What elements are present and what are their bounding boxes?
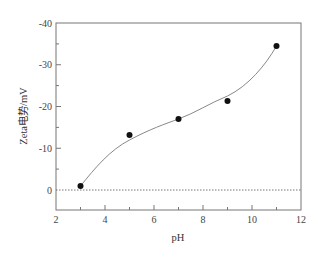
zeta-potential-chart: 2 4 6 8 10 12 -40 -30 -20 -10 0 pH Zeta电…	[0, 0, 323, 254]
x-axis-ticks	[81, 205, 277, 210]
y-tick-label: -30	[39, 59, 52, 70]
y-tick-label: 0	[47, 185, 52, 196]
data-point-ph7	[176, 116, 182, 122]
x-axis-title: pH	[172, 232, 185, 243]
x-tick-label: 10	[247, 214, 257, 225]
x-tick-label: 12	[296, 214, 306, 225]
y-tick-labels: -40 -30 -20 -10 0	[39, 18, 52, 196]
y-axis-ticks	[56, 44, 61, 169]
x-tick-label: 2	[54, 214, 59, 225]
data-point-ph11	[274, 43, 280, 49]
x-tick-label: 4	[103, 214, 108, 225]
data-point-ph5	[127, 132, 133, 138]
data-points	[78, 43, 280, 189]
y-tick-label: -40	[39, 18, 52, 29]
y-tick-label: -20	[39, 101, 52, 112]
x-tick-label: 6	[152, 214, 157, 225]
y-tick-label: -10	[39, 143, 52, 154]
data-point-ph3	[78, 183, 84, 189]
y-axis-title: Zeta电势/mV	[17, 87, 29, 145]
x-tick-labels: 2 4 6 8 10 12	[54, 214, 307, 225]
x-tick-label: 8	[201, 214, 206, 225]
data-point-ph9	[225, 98, 231, 104]
